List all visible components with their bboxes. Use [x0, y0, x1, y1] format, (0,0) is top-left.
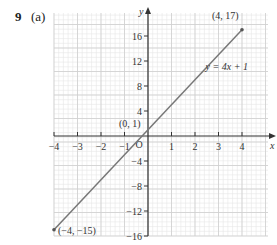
y-tick-label: −12 [126, 206, 142, 217]
point-label: (4, 17) [212, 10, 239, 22]
x-tick-label: 4 [240, 141, 245, 152]
origin-label: O [135, 139, 142, 150]
y-tick-label: −4 [131, 156, 142, 167]
equation-label: y = 4x + 1 [205, 61, 248, 72]
y-tick-label: 16 [132, 31, 142, 42]
x-tick-label: 3 [216, 141, 221, 152]
point-label: (−4, −15) [58, 225, 96, 237]
y-tick-label: 8 [137, 81, 142, 92]
x-tick-label: −4 [49, 141, 60, 152]
x-tick-label: −3 [72, 141, 83, 152]
y-axis-label: y [138, 6, 144, 17]
x-tick-label: −2 [96, 141, 107, 152]
data-point [52, 228, 56, 232]
y-tick-label: 4 [137, 106, 142, 117]
x-tick-label: 2 [193, 141, 198, 152]
y-tick-label: 12 [132, 56, 142, 67]
y-tick-label: −8 [131, 181, 142, 192]
data-point [240, 28, 244, 32]
line-chart: xy−4−3−2−11234161284−4−8−12−16O(−4, −15)… [0, 0, 277, 245]
x-tick-label: 1 [169, 141, 174, 152]
point-label: (0, 1) [119, 118, 141, 130]
y-axis-arrow-icon [145, 7, 151, 14]
x-axis-label: x [269, 140, 275, 151]
y-tick-label: −16 [126, 231, 142, 242]
x-axis-arrow-icon [269, 133, 276, 139]
